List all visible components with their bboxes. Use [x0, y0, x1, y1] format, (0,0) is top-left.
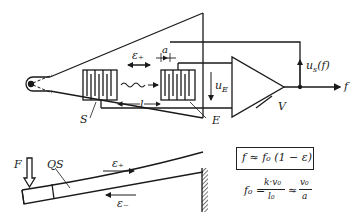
diagram-canvas: ε₊ a l S E V uE us(f) f F QS ε₊ ε₋ f ≈ f… [0, 0, 357, 224]
label-l: l [140, 99, 144, 110]
formula-frac2-den: a [302, 192, 307, 201]
formula-frac1-den: l₀ [268, 192, 275, 201]
formula-approx: ≈ [288, 185, 297, 196]
amplifier-v [232, 57, 284, 117]
pivot-icon [29, 82, 34, 87]
label-beam-strain-plus: ε₊ [112, 158, 124, 169]
formula-frac2-num: v₀ [300, 178, 309, 187]
fraction-bar-1 [263, 189, 285, 190]
transducer-e [161, 70, 195, 100]
label-e: E [212, 115, 220, 126]
label-a: a [162, 45, 168, 55]
formula-boxed: f ≈ f₀ (1 − ε) [242, 152, 312, 163]
label-beam-strain-minus: ε₋ [117, 198, 129, 209]
formula-frac1-num: k·v₀ [264, 178, 281, 187]
label-strain-plus: ε₊ [132, 50, 144, 61]
label-f: f [344, 81, 348, 92]
formula-f0-lhs: f₀ = [244, 185, 265, 196]
wall-hatch [202, 168, 208, 212]
force-arrow [24, 158, 35, 187]
label-force: F [14, 159, 22, 170]
transducer-s [83, 70, 117, 100]
label-s: S [80, 114, 88, 125]
label-v: V [278, 101, 286, 112]
label-qs: QS [47, 159, 64, 170]
label-ue: uE [215, 80, 228, 94]
label-us: us(f) [306, 60, 330, 74]
fraction-bar-2 [299, 189, 312, 190]
